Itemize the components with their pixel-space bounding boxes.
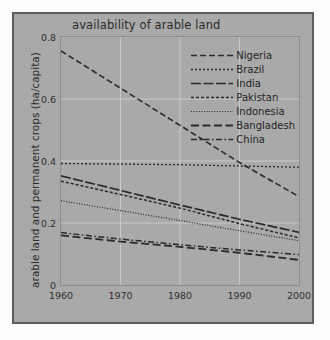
legend-label-bangladesh: Bangladesh xyxy=(236,121,295,131)
chart-panel: availability of arable land arable land … xyxy=(12,12,314,324)
chart-legend: NigeriaBrazilIndiaPakistanIndonesiaBangl… xyxy=(191,49,295,146)
y-tick-0-2: 0.2 xyxy=(41,218,56,229)
chart-title: availability of arable land xyxy=(72,18,221,32)
legend-item-india[interactable]: India xyxy=(191,77,295,90)
legend-label-brazil: Brazil xyxy=(236,65,264,75)
legend-item-pakistan[interactable]: Pakistan xyxy=(191,91,295,104)
y-tick-0-4: 0.4 xyxy=(41,156,56,167)
legend-item-brazil[interactable]: Brazil xyxy=(191,63,295,76)
legend-label-nigeria: Nigeria xyxy=(236,51,272,61)
legend-swatch-bangladesh xyxy=(191,121,233,130)
legend-swatch-pakistan xyxy=(191,93,233,102)
legend-label-india: India xyxy=(236,79,261,89)
chart-figure: availability of arable land arable land … xyxy=(14,14,312,322)
x-tick-1960: 1960 xyxy=(49,290,73,301)
legend-item-indonesia[interactable]: Indonesia xyxy=(191,105,295,118)
legend-swatch-indonesia xyxy=(191,107,233,116)
legend-item-nigeria[interactable]: Nigeria xyxy=(191,49,295,62)
plot-area: 00.20.40.60.8 19601970198019902000 Niger… xyxy=(60,36,300,286)
x-tick-2000: 2000 xyxy=(287,290,311,301)
legend-swatch-china xyxy=(191,135,233,144)
y-tick-0-8: 0.8 xyxy=(41,32,56,43)
legend-swatch-nigeria xyxy=(191,51,233,60)
legend-label-indonesia: Indonesia xyxy=(236,107,284,117)
y-tick-0-6: 0.6 xyxy=(41,94,56,105)
x-tick-1980: 1980 xyxy=(168,290,192,301)
legend-swatch-india xyxy=(191,79,233,88)
legend-item-bangladesh[interactable]: Bangladesh xyxy=(191,119,295,132)
legend-label-pakistan: Pakistan xyxy=(236,93,278,103)
legend-swatch-brazil xyxy=(191,65,233,74)
y-tick-0: 0 xyxy=(50,280,56,291)
legend-item-china[interactable]: China xyxy=(191,133,295,146)
x-tick-1990: 1990 xyxy=(227,290,251,301)
legend-label-china: China xyxy=(236,135,265,145)
y-axis-label: arable land and permanent crops (ha/capi… xyxy=(29,45,41,295)
x-tick-1970: 1970 xyxy=(108,290,132,301)
